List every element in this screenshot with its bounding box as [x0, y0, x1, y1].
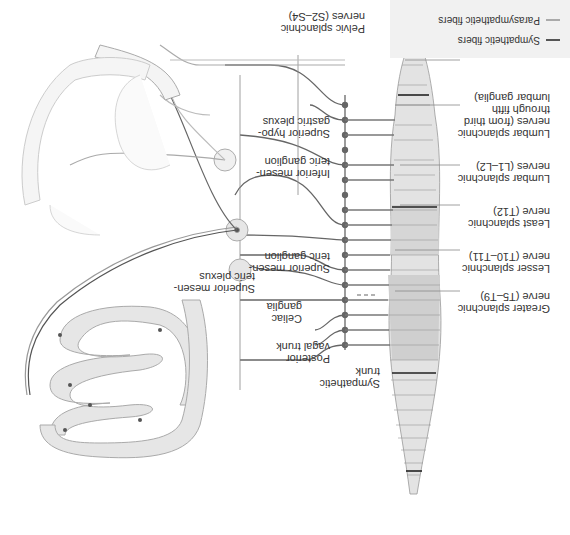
label-lumbar-splanchnic-l1-l2: Lumbar splanchnic nerves (L1–L2)	[458, 161, 550, 185]
ganglia	[214, 149, 251, 281]
label-lumbar-splanchnic-lower: Lumbar splanchnic nerves (from third thr…	[458, 92, 550, 140]
legend-item-parasympathetic: Parasympathetic fibers	[438, 15, 560, 26]
label-greater-splanchnic: Greater splanchnic nerve (T5–T9)	[458, 291, 550, 315]
sympathetic-line-swatch-icon	[546, 40, 560, 42]
label-sympathetic-trunk: Sympathetic trunk	[319, 366, 380, 390]
upper-intestine-outline	[50, 75, 170, 235]
label-posterior-vagal-trunk: Posterior vagal trunk	[276, 341, 330, 365]
label-lesser-splanchnic: Lesser splanchnic nerve (T10–T11)	[462, 251, 550, 275]
colon	[22, 45, 208, 458]
label-least-splanchnic: Least splanchnic nerve (T12)	[468, 206, 550, 230]
label-superior-mesenteric-ganglion: Superior mesen- teric ganglion	[249, 251, 330, 275]
rami-communicantes	[345, 120, 395, 345]
sympathetic-chain	[343, 95, 348, 350]
legend-label-parasympathetic: Parasympathetic fibers	[438, 15, 540, 26]
autonomic-abdominal-innervation-diagram: Sacral splanchnic nerves (from first thr…	[0, 0, 570, 535]
legend: Sympathetic fibers Parasympathetic fiber…	[390, 0, 570, 58]
label-superior-mesenteric-plexus: Superior mesen- teric plexus	[174, 271, 255, 295]
label-superior-hypogastric-plexus: Superior hypo- gastric plexus	[258, 116, 330, 140]
parasympathetic-line-swatch-icon	[546, 20, 560, 22]
label-pelvic-splanchnic: Pelvic splanchnic nerves (S2–S4)	[281, 11, 365, 35]
legend-label-sympathetic: Sympathetic fibers	[458, 35, 540, 46]
small-intestine	[50, 306, 199, 435]
label-celiac-ganglia: Celiac ganglia	[267, 301, 302, 325]
spinal-column	[388, 39, 441, 494]
label-inferior-mesenteric-ganglion: Inferior mesen- teric ganglion	[256, 156, 330, 180]
legend-item-sympathetic: Sympathetic fibers	[458, 35, 560, 46]
